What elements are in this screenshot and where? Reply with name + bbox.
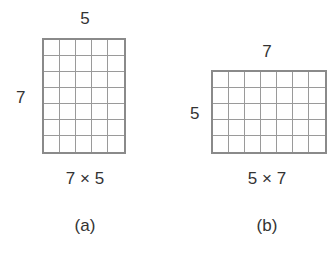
grid-cell [213,120,229,136]
grid-cell [76,104,92,120]
panel-a-expression-label: 7 × 5 [66,170,104,187]
grid-cell [309,120,325,136]
grid-cell [60,40,76,56]
grid-row [213,88,325,104]
grid-cell [261,104,277,120]
panel-a-array-grid [42,38,126,154]
grid-cell [245,88,261,104]
grid-cell [44,120,60,136]
grid-cell [44,136,60,152]
grid-cell [108,40,124,56]
grid-cell [277,136,293,152]
grid-cell [293,88,309,104]
grid-cell [92,136,108,152]
grid-cell [76,88,92,104]
grid-cell [108,88,124,104]
grid-row [44,136,124,152]
grid-cell [293,136,309,152]
grid-cell [293,120,309,136]
grid-cell [44,88,60,104]
grid-cell [76,56,92,72]
grid-cell [213,104,229,120]
grid-cell [108,72,124,88]
grid-cell [44,72,60,88]
grid-cell [92,40,108,56]
grid-cell [213,88,229,104]
grid-cell [213,72,229,88]
grid-row [213,104,325,120]
grid-cell [60,72,76,88]
grid-cell [229,104,245,120]
grid-cell [76,136,92,152]
panel-b-left-dimension-label: 5 [190,105,199,122]
grid-cell [92,120,108,136]
grid-cell [277,120,293,136]
panel-a-left-dimension-label: 7 [16,89,25,106]
panel-b-array-grid [211,70,327,154]
grid-cell [245,136,261,152]
grid-cell [44,104,60,120]
grid-cell [44,40,60,56]
grid-cell [277,88,293,104]
grid-cell [229,72,245,88]
grid-cell [309,136,325,152]
grid-cell [229,136,245,152]
grid-cell [44,56,60,72]
grid-cell [108,136,124,152]
grid-cell [309,72,325,88]
grid-cell [60,56,76,72]
grid-cell [309,104,325,120]
grid-cell [108,104,124,120]
grid-cell [261,88,277,104]
grid-cell [293,104,309,120]
grid-cell [261,136,277,152]
panel-a-caption: (a) [75,217,96,234]
panel-a-top-dimension-label: 5 [80,10,89,27]
grid-row [213,136,325,152]
grid-cell [60,120,76,136]
grid-cell [277,104,293,120]
grid-cell [60,136,76,152]
grid-cell [92,72,108,88]
grid-cell [92,88,108,104]
grid-cell [229,88,245,104]
grid-row [44,56,124,72]
grid-cell [309,88,325,104]
panel-b-top-dimension-label: 7 [262,43,271,60]
grid-cell [277,72,293,88]
grid-row [44,88,124,104]
grid-cell [60,104,76,120]
grid-row [213,120,325,136]
grid-cell [245,120,261,136]
grid-cell [108,56,124,72]
panel-b-expression-label: 5 × 7 [248,170,286,187]
grid-cell [245,104,261,120]
grid-row [44,40,124,56]
grid-cell [76,72,92,88]
grid-row [213,72,325,88]
grid-cell [229,120,245,136]
grid-cell [261,72,277,88]
grid-cell [261,120,277,136]
grid-cell [213,136,229,152]
figure-canvas: 5 7 7 × 5 (a) 7 5 5 × 7 (b) [0,0,331,255]
grid-cell [92,56,108,72]
grid-row [44,104,124,120]
grid-cell [108,120,124,136]
grid-cell [76,40,92,56]
grid-cell [60,88,76,104]
grid-cell [76,120,92,136]
grid-cell [245,72,261,88]
grid-row [44,120,124,136]
panel-b-caption: (b) [257,217,278,234]
grid-cell [92,104,108,120]
grid-cell [293,72,309,88]
grid-row [44,72,124,88]
